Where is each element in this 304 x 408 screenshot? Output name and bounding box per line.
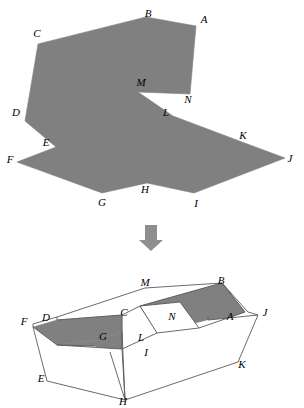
net-vertex-label-k: K [238, 129, 247, 141]
solid-vertex-label-k: K [237, 358, 246, 370]
net-vertex-label-a: A [200, 13, 208, 25]
net-vertex-label-n: N [183, 93, 192, 105]
downward-arrow-icon [139, 225, 163, 251]
figure-canvas: ABCDEFGHIJKLMN MBFDCNAJGLIKEH [0, 0, 304, 408]
net-vertex-label-l: L [162, 106, 169, 118]
solid-vertex-label-e: E [37, 372, 45, 384]
solid-vertex-label-n: N [167, 310, 176, 322]
net-vertex-label-j: J [288, 152, 294, 164]
arrow-group [139, 225, 163, 251]
folded-solid-faces [33, 283, 258, 400]
solid-vertex-label-l: L [137, 331, 144, 343]
net-vertex-label-h: H [140, 183, 150, 195]
solid-vertex-label-b: B [218, 274, 225, 286]
net-vertex-label-e: E [42, 136, 50, 148]
net-vertex-label-m: M [135, 76, 146, 88]
solid-vertex-label-d: D [41, 311, 50, 323]
solid-vertex-label-a: A [226, 310, 234, 322]
top-diagram-group: ABCDEFGHIJKLMN [6, 7, 294, 209]
net-vertex-label-d: D [11, 106, 20, 118]
net-vertex-label-c: C [33, 27, 41, 39]
flat-net-polygon [17, 17, 285, 193]
solid-vertex-label-h: H [118, 395, 128, 407]
solid-vertex-label-f: F [20, 315, 28, 327]
net-vertex-label-i: I [193, 197, 199, 209]
solid-vertex-label-c: C [120, 306, 128, 318]
solid-vertex-label-m: M [139, 276, 150, 288]
solid-vertex-label-g: G [99, 330, 107, 342]
net-vertex-label-b: B [145, 7, 152, 19]
bottom-diagram-group: MBFDCNAJGLIKEH [20, 274, 269, 407]
net-vertex-label-g: G [98, 196, 106, 208]
solid-edge-4 [248, 312, 258, 315]
net-vertex-label-f: F [6, 153, 14, 165]
figure-container: ABCDEFGHIJKLMN MBFDCNAJGLIKEH [0, 0, 304, 408]
solid-vertex-label-j: J [263, 306, 269, 318]
